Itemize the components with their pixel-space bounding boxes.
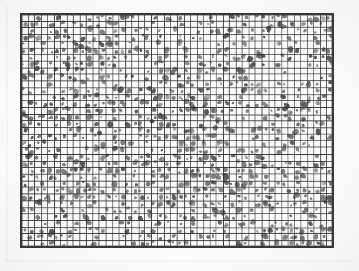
grid-plot [20, 13, 334, 248]
grid-canvas [21, 14, 333, 247]
scanned-page: Scanned graph-paper grid with ink marks … [0, 0, 359, 271]
